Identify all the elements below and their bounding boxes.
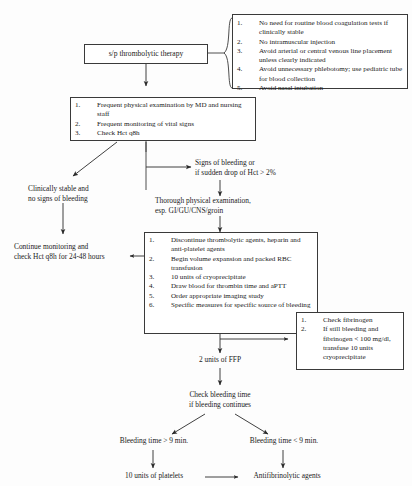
item-text: If still bleeding and fibrinogen < 100 m… bbox=[323, 325, 391, 361]
node-continue-monitoring: Continue monitoring and check Hct q8h fo… bbox=[14, 242, 144, 261]
item-text: Draw blood for thrombin time and aPTT bbox=[171, 282, 286, 290]
node-platelets: 10 units of platelets bbox=[98, 471, 210, 481]
item-number: 3. bbox=[149, 273, 154, 282]
list-item: 2. Begin volume expansion and packed RBC… bbox=[145, 255, 314, 274]
list-item: 1. No need for routine blood coagulation… bbox=[233, 19, 404, 38]
item-number: 6. bbox=[149, 301, 154, 310]
continue-line-2: check Hct q8h for 24-48 hours bbox=[14, 252, 144, 262]
item-text: Avoid nasal intubation bbox=[259, 84, 323, 92]
item-text: No need for routine blood coagulation te… bbox=[259, 19, 388, 36]
list-item: 2. No intramuscular injection bbox=[233, 38, 404, 47]
item-number: 2. bbox=[149, 255, 154, 264]
item-text: No intramuscular injection bbox=[259, 38, 335, 46]
node-start[interactable]: s/p thrombolytic therapy bbox=[84, 44, 208, 64]
stable-line-2: no signs of bleeding bbox=[28, 194, 138, 204]
item-text: Check Hct q8h bbox=[97, 129, 140, 137]
bt-short-label: Bleeding time < 9 min. bbox=[250, 436, 318, 445]
item-text: Begin volume expansion and packed RBC tr… bbox=[171, 255, 291, 272]
item-number: 1. bbox=[149, 236, 154, 245]
item-number: 1. bbox=[237, 19, 242, 28]
list-item: 2. If still bleeding and fibrinogen < 10… bbox=[297, 325, 400, 362]
bleeding-line-1: Signs of bleeding or bbox=[195, 158, 317, 168]
item-number: 4. bbox=[237, 65, 242, 74]
list-item: 5. Order appropriate imaging study bbox=[145, 292, 314, 301]
edge-bt-long bbox=[172, 414, 205, 434]
item-text: Frequent monitoring of vital signs bbox=[97, 120, 194, 128]
item-number: 1. bbox=[301, 316, 306, 325]
list-item: 1. Discontinue thrombolytic agents, hepa… bbox=[145, 236, 314, 255]
edge-bt-short bbox=[235, 414, 268, 434]
node-ffp: 2 units of FFP bbox=[170, 355, 270, 365]
flowchart-canvas: s/p thrombolytic therapy 1. No need for … bbox=[0, 0, 412, 486]
node-signs-of-bleeding: Signs of bleeding or if sudden drop of H… bbox=[195, 158, 317, 177]
node-antifibrinolytic: Antifibrinolytic agents bbox=[228, 471, 346, 481]
node-bleeding-time-short: Bleeding time < 9 min. bbox=[228, 436, 340, 446]
bt-long-label: Bleeding time > 9 min. bbox=[120, 436, 188, 445]
node-check-bleeding-time: Check bleeding time if bleeding continue… bbox=[160, 390, 280, 409]
fibrinogen-list: 1. Check fibrinogen 2. If still bleeding… bbox=[297, 316, 400, 362]
item-number: 5. bbox=[237, 84, 242, 93]
node-start-label: s/p thrombolytic therapy bbox=[109, 49, 184, 59]
exam-line-2: esp. GI/GU/CNS/groin bbox=[155, 206, 295, 216]
list-item: 3. 10 units of cryoprecipitate bbox=[145, 273, 314, 282]
item-number: 3. bbox=[237, 47, 242, 56]
node-fibrinogen[interactable]: 1. Check fibrinogen 2. If still bleeding… bbox=[296, 312, 404, 370]
list-item: 3. Avoid arterial or central venous line… bbox=[233, 47, 404, 66]
item-number: 2. bbox=[301, 325, 306, 334]
item-text: Discontinue thrombolytic agents, heparin… bbox=[171, 236, 300, 253]
list-item: 2. Frequent monitoring of vital signs bbox=[71, 120, 252, 129]
continue-line-1: Continue monitoring and bbox=[14, 242, 144, 252]
item-text: 10 units of cryoprecipitate bbox=[171, 273, 246, 281]
list-item: 6. Specific measures for specific source… bbox=[145, 301, 314, 310]
item-number: 4. bbox=[149, 282, 154, 291]
monitoring-list: 1. Frequent physical examination by MD a… bbox=[71, 101, 252, 138]
list-item: 4. Draw blood for thrombin time and aPTT bbox=[145, 282, 314, 291]
item-number: 2. bbox=[237, 38, 242, 47]
list-item: 5. Avoid nasal intubation bbox=[233, 84, 404, 93]
antifib-label: Antifibrinolytic agents bbox=[253, 471, 320, 480]
item-text: Avoid arterial or central venous line pl… bbox=[259, 47, 392, 64]
item-number: 2. bbox=[75, 120, 80, 129]
item-text: Specific measures for specific source of… bbox=[171, 301, 310, 309]
list-item: 4. Avoid unnecessary phlebotomy; use ped… bbox=[233, 65, 404, 84]
precautions-list: 1. No need for routine blood coagulation… bbox=[233, 19, 404, 93]
list-item: 1. Frequent physical examination by MD a… bbox=[71, 101, 252, 120]
edge-to-stable bbox=[73, 142, 117, 176]
item-text: Frequent physical examination by MD and … bbox=[97, 101, 242, 118]
exam-line-1: Thorough physical examination, bbox=[155, 196, 295, 206]
node-bleeding-time-long: Bleeding time > 9 min. bbox=[98, 436, 210, 446]
brace-connector bbox=[224, 18, 232, 88]
item-text: Avoid unnecessary phlebotomy; use pediat… bbox=[259, 65, 402, 82]
item-text: Order appropriate imaging study bbox=[171, 292, 264, 300]
list-item: 3. Check Hct q8h bbox=[71, 129, 252, 138]
node-clinically-stable: Clinically stable and no signs of bleedi… bbox=[28, 184, 138, 203]
interventions-list: 1. Discontinue thrombolytic agents, hepa… bbox=[145, 236, 314, 310]
node-interventions[interactable]: 1. Discontinue thrombolytic agents, hepa… bbox=[144, 232, 318, 334]
ffp-label: 2 units of FFP bbox=[199, 355, 241, 364]
item-text: Check fibrinogen bbox=[323, 316, 372, 324]
list-item: 1. Check fibrinogen bbox=[297, 316, 400, 325]
bt-line-1: Check bleeding time bbox=[160, 390, 280, 400]
stable-line-1: Clinically stable and bbox=[28, 184, 138, 194]
node-monitoring[interactable]: 1. Frequent physical examination by MD a… bbox=[70, 97, 256, 141]
node-thorough-exam: Thorough physical examination, esp. GI/G… bbox=[155, 196, 295, 215]
item-number: 5. bbox=[149, 292, 154, 301]
platelets-label: 10 units of platelets bbox=[125, 471, 183, 480]
bleeding-line-2: if sudden drop of Hct > 2% bbox=[195, 168, 317, 178]
node-precautions[interactable]: 1. No need for routine blood coagulation… bbox=[232, 14, 408, 89]
bt-line-2: if bleeding continues bbox=[160, 400, 280, 410]
item-number: 3. bbox=[75, 129, 80, 138]
item-number: 1. bbox=[75, 101, 80, 110]
